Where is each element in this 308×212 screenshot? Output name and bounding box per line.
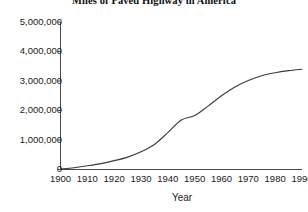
x-axis-tick-label: 1930: [130, 173, 151, 184]
x-axis-tick-label: 1920: [104, 173, 125, 184]
x-axis-tick-label: 1900: [50, 173, 71, 184]
x-axis-tick-label: 1960: [211, 173, 232, 184]
x-axis-tick-label: 1980: [265, 173, 286, 184]
x-axis-tick-label: 1910: [77, 173, 98, 184]
x-axis-tick-label: 1950: [184, 173, 205, 184]
x-axis-tick-label: 1940: [157, 173, 178, 184]
x-axis-title: Year: [0, 192, 308, 203]
x-axis-tick-labels: 1900191019201930194019501960197019801990: [0, 0, 308, 212]
chart-figure: Miles of Paved Highway in America 01,000…: [0, 0, 308, 212]
x-axis-tick-label: 1990: [291, 173, 308, 184]
x-axis-tick-label: 1970: [238, 173, 259, 184]
